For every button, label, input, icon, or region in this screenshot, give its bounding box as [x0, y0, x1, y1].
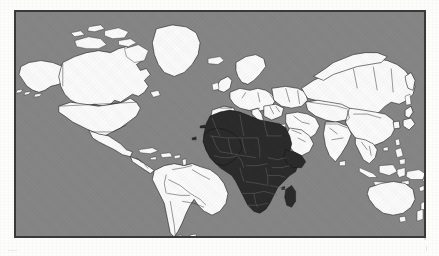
region-korea [393, 121, 400, 129]
page-speck [8, 250, 17, 251]
region-sri-lanka [339, 161, 345, 166]
region-philippines [399, 159, 405, 165]
world-map-svg: .land { fill: #fdfdfd; stroke: #1f1f1f; … [15, 11, 425, 237]
page-speck [426, 246, 427, 251]
world-map-figure: .land { fill: #fdfdfd; stroke: #1f1f1f; … [14, 10, 426, 238]
page-background: .land { fill: #fdfdfd; stroke: #1f1f1f; … [0, 0, 439, 256]
region-tasmania [399, 216, 406, 222]
region-sulawesi [397, 168, 405, 178]
region-new-zealand-south [417, 209, 423, 221]
region-taiwan [395, 139, 400, 146]
region-sakhalin [405, 94, 411, 105]
region-hispaniola [160, 153, 172, 158]
